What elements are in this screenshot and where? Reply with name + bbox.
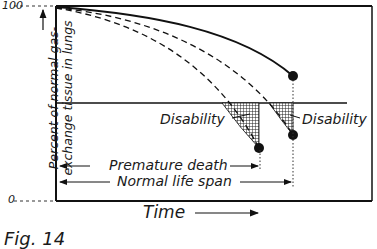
curve-normal-solid <box>56 7 293 76</box>
x-axis-label-time: Time <box>143 202 185 222</box>
endpoint-dot-normal <box>288 71 298 81</box>
endpoint-dot-dashed-normal <box>288 130 298 140</box>
y-axis-label-line2: exchange tissue in lungs <box>61 0 75 203</box>
y-tick-100: 100 <box>2 0 23 12</box>
y-axis-label-line1: Percent of normal gas- <box>47 0 61 203</box>
disability-label-left: Disability <box>160 111 225 127</box>
normal-life-span-label: Normal life span <box>116 173 233 189</box>
y-tick-0: 0 <box>8 193 15 206</box>
premature-death-label: Premature death <box>108 157 229 173</box>
figure-caption: Fig. 14 <box>4 228 65 249</box>
curve-dashed-premature <box>56 8 259 148</box>
disability-label-right: Disability <box>302 111 367 127</box>
disability-area-premature <box>222 103 259 148</box>
y-axis-label: Percent of normal gas- exchange tissue i… <box>47 0 75 203</box>
endpoint-dot-premature <box>254 143 264 153</box>
